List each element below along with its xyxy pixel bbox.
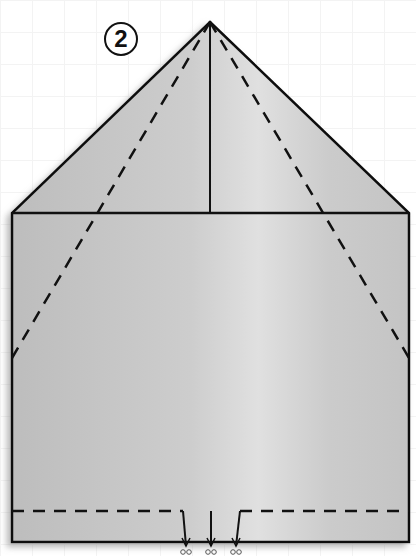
step-number: 2: [114, 27, 127, 51]
scissors-icon: [181, 550, 242, 555]
step-number-badge: 2: [104, 22, 138, 56]
folding-diagram: [0, 0, 416, 556]
